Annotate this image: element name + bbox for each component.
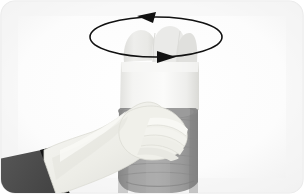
rotate-container-illustration	[0, 0, 304, 194]
illustration-stage: Rotate the container cap A hand grips th…	[0, 0, 304, 194]
container-neck-highlight	[121, 62, 199, 72]
grip-band-right-shade	[189, 108, 199, 193]
